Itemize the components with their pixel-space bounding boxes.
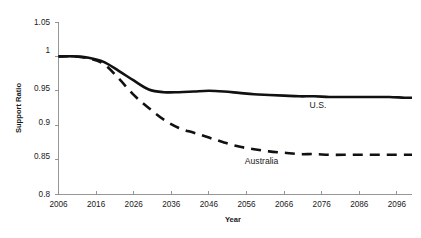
chart-figure: 1.05 1 0.95 0.9 0.85 0.8: [0, 0, 421, 238]
y-axis-tick-labels: 1.05 1 0.95 0.9 0.85 0.8: [34, 18, 50, 199]
x-tick-label: 2026: [125, 200, 144, 209]
x-tick-label: 2076: [313, 200, 332, 209]
series-line-australia: [59, 56, 413, 155]
y-tick-label: 0.85: [34, 152, 50, 161]
x-axis-title: Year: [225, 215, 241, 224]
y-axis-title: Support Ratio: [14, 83, 23, 134]
series-line-us: [59, 56, 413, 97]
support-ratio-line-chart: 1.05 1 0.95 0.9 0.85 0.8: [0, 0, 421, 238]
data-series-group: [59, 56, 413, 155]
series-annotation-us: U.S.: [310, 100, 327, 110]
y-tick-label: 1: [45, 46, 50, 55]
y-tick-label: 0.8: [39, 190, 51, 199]
y-tick-label: 0.9: [39, 118, 51, 127]
x-tick-label: 2066: [275, 200, 294, 209]
x-tick-label: 2096: [388, 200, 407, 209]
x-tick-label: 2036: [162, 200, 181, 209]
x-tick-label: 2086: [350, 200, 369, 209]
x-axis-tick-labels: 2006 2016 2026 2036 2046 2056 2066 2076 …: [49, 200, 406, 209]
y-tick-label: 0.95: [34, 84, 50, 93]
chart-axes: [55, 22, 413, 195]
series-annotation-australia: Australia: [245, 156, 279, 166]
x-tick-label: 2016: [87, 200, 106, 209]
x-tick-label: 2006: [49, 200, 68, 209]
y-tick-label: 1.05: [34, 18, 50, 27]
x-tick-label: 2046: [200, 200, 219, 209]
x-tick-label: 2056: [237, 200, 256, 209]
